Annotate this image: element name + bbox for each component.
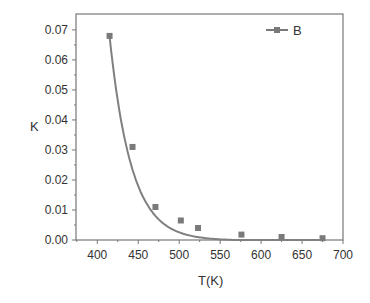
plot-frame — [76, 14, 343, 240]
x-tick-label: 600 — [251, 248, 271, 262]
data-point — [238, 232, 244, 238]
data-points — [107, 33, 326, 241]
y-axis: 0.000.010.020.030.040.050.060.07 — [45, 23, 76, 247]
x-tick-label: 400 — [87, 248, 107, 262]
x-tick-label: 650 — [292, 248, 312, 262]
data-point — [195, 225, 201, 231]
y-tick-label: 0.05 — [45, 83, 69, 97]
legend-label: B — [293, 23, 302, 38]
data-point — [130, 144, 136, 150]
y-tick-label: 0.03 — [45, 143, 69, 157]
x-tick-label: 450 — [128, 248, 148, 262]
y-tick-label: 0.00 — [45, 233, 69, 247]
y-tick-label: 0.02 — [45, 173, 69, 187]
fit-curve — [110, 37, 320, 241]
data-point — [178, 217, 184, 223]
chart: 0.000.010.020.030.040.050.060.07 4004505… — [0, 0, 370, 303]
x-tick-label: 550 — [210, 248, 230, 262]
data-point — [107, 33, 113, 39]
data-point — [320, 235, 326, 241]
x-tick-label: 500 — [169, 248, 189, 262]
y-tick-label: 0.01 — [45, 203, 69, 217]
y-axis-label: K — [30, 119, 39, 134]
legend-marker-icon — [274, 27, 280, 33]
legend: B — [266, 23, 302, 38]
data-point — [279, 234, 285, 240]
x-axis-label: T(K) — [198, 273, 223, 288]
data-point — [152, 204, 158, 210]
y-tick-label: 0.07 — [45, 23, 69, 37]
y-tick-label: 0.04 — [45, 113, 69, 127]
x-axis: 400450500550600650700 — [77, 240, 354, 262]
y-tick-label: 0.06 — [45, 53, 69, 67]
x-tick-label: 700 — [333, 248, 353, 262]
